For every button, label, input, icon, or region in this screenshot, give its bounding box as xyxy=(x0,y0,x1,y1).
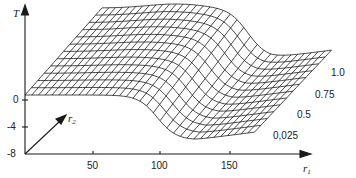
mesh-line-r1 xyxy=(214,55,291,137)
depth-tick-label-075: 0.75 xyxy=(315,90,334,100)
mesh-line-r1 xyxy=(167,28,244,128)
depth-axis-label: r2 xyxy=(68,113,76,127)
mesh-line-r1 xyxy=(174,36,251,133)
mesh-line-r1 xyxy=(234,53,311,135)
mesh-line-r1 xyxy=(147,11,224,106)
depth-axis-label-sub: 2 xyxy=(72,118,76,126)
x-tick-label-100: 100 xyxy=(151,161,168,171)
depth-tick-label-0025: 0,025 xyxy=(273,131,298,141)
depth-axis xyxy=(25,121,60,154)
surface-plot xyxy=(0,0,356,178)
z-tick-label-0: 0 xyxy=(13,95,19,105)
z-axis-label: T xyxy=(13,8,19,18)
depth-tick-label-10: 1.0 xyxy=(331,68,345,78)
mesh-line-r1 xyxy=(133,7,210,98)
x-axis-label: r1 xyxy=(303,163,311,177)
mesh-line-r1 xyxy=(140,8,217,101)
mesh-line-r1 xyxy=(207,55,284,138)
x-axis-arrow-icon xyxy=(300,151,311,158)
z-tick-label-m4: -4 xyxy=(7,122,16,132)
mesh-line-r1 xyxy=(248,51,325,133)
z-axis-arrow-icon xyxy=(22,5,29,15)
mesh-line-r1 xyxy=(228,54,305,136)
x-tick-label-150: 150 xyxy=(221,161,238,171)
depth-tick-label-05: 0.5 xyxy=(297,110,311,120)
z-tick-label-m8: -8 xyxy=(7,149,16,159)
mesh-line-r1 xyxy=(194,54,271,139)
x-axis-label-sub: 1 xyxy=(307,168,311,176)
mesh-line-r1 xyxy=(93,4,170,95)
x-tick-label-50: 50 xyxy=(87,161,98,171)
